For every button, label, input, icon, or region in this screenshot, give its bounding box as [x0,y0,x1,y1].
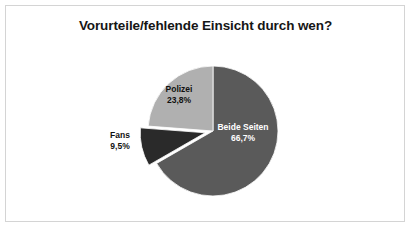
pie-chart: Beide Seiten 66,7% Polizei 23,8% Fans 9,… [0,0,411,228]
pie-label-fans: Fans 9,5% [98,130,142,152]
pie-label-polizei-name: Polizei [152,84,206,95]
pie-label-beide-seiten-name: Beide Seiten [200,122,286,133]
pie-label-fans-value: 9,5% [98,141,142,152]
chart-screenshot: Vorurteile/fehlende Einsicht durch wen? … [0,0,411,228]
pie-label-polizei-value: 23,8% [152,95,206,106]
pie-label-fans-name: Fans [98,130,142,141]
pie-label-beide-seiten: Beide Seiten 66,7% [200,122,286,144]
pie-label-beide-seiten-value: 66,7% [200,133,286,144]
pie-label-polizei: Polizei 23,8% [152,84,206,106]
pie-chart-svg [0,0,411,228]
